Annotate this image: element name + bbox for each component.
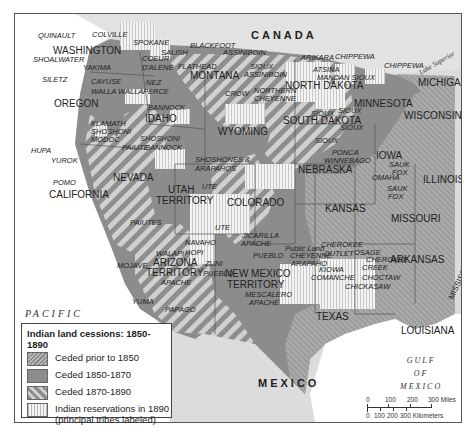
ocean-label-gulf: GULFOFMEXICO xyxy=(400,354,442,393)
tribe-label: BANNOCK xyxy=(145,144,182,152)
tribe-label: ASSINIBOIN xyxy=(244,71,287,79)
tribe-label: WALAPI xyxy=(156,250,184,258)
tribe-label: D'ALENE xyxy=(142,64,173,72)
state-label: NEBRASKA xyxy=(298,164,352,175)
tribe-label: PUEBLO xyxy=(253,252,283,260)
state-label: LOUISIANA xyxy=(401,325,454,336)
country-label-canada: CANADA xyxy=(251,29,317,41)
legend-item-reservations: Indian reservations in 1890(principal tr… xyxy=(27,403,171,429)
state-label: WYOMING xyxy=(218,126,268,137)
country-label-mexico: MEXICO xyxy=(258,377,319,389)
tribe-label: MANDAN SIOUX xyxy=(317,74,375,82)
legend-title: Indian land cessions: 1850-1890 xyxy=(27,328,171,350)
state-label: IDAHO xyxy=(145,113,177,124)
tribe-label: APACHE xyxy=(241,240,271,248)
tribe-label: CROW xyxy=(225,90,249,98)
tribe-label: BANNOCK xyxy=(148,104,185,112)
tribe-label: FOX xyxy=(388,193,403,201)
state-label: UTAH xyxy=(168,184,194,195)
legend-item-prior-1850: Ceded prior to 1850 xyxy=(27,352,171,367)
state-label: KANSAS xyxy=(325,203,366,214)
tribe-label: SIOUX xyxy=(311,110,334,118)
state-label: ILLINOIS xyxy=(423,174,462,185)
state-label: OREGON xyxy=(54,98,98,109)
map-legend: Indian land cessions: 1850-1890 Ceded pr… xyxy=(21,323,172,418)
tribe-label: ZUNI xyxy=(205,260,223,268)
tribe-label: UTE xyxy=(202,183,217,191)
tribe-label: CHIPPEWA xyxy=(384,62,424,70)
scale-bar: 0 100 200 300 Miles 0 100 200 300 Kilome… xyxy=(366,396,466,422)
tribe-label: MOJAVE xyxy=(117,262,147,270)
tribe-label: CHOCTAW xyxy=(362,274,400,282)
tribe-label: SHOALWATER xyxy=(33,56,85,64)
state-label: TERRITORY xyxy=(227,279,284,290)
tribe-label: QUINAULT xyxy=(38,32,75,40)
tribe-label: POMO xyxy=(53,179,76,187)
tribe-label: SILETZ xyxy=(42,76,67,84)
tribe-label: NAVAHO xyxy=(185,239,216,247)
tribe-label: CHEYENNE xyxy=(254,95,296,103)
tribe-label: YUROK xyxy=(51,157,78,165)
tribe-label: ASSINIBOIN xyxy=(223,49,266,57)
tribe-label: SHOSHONI xyxy=(140,135,180,143)
tribe-label: SIOUX xyxy=(338,107,361,115)
tribe-label: COLVILLE xyxy=(92,31,127,39)
tribe-label: PAIUTES xyxy=(130,219,162,227)
tribe-label: NEZ xyxy=(146,79,161,87)
wide-diagonal-swatch-icon xyxy=(27,386,48,400)
tribe-label: YAKIMA xyxy=(83,64,111,72)
tribe-label: APACHE xyxy=(161,279,191,287)
fine-diagonal-swatch-icon xyxy=(27,352,48,366)
state-label: COLORADO xyxy=(227,197,284,208)
tribe-label: HUPA xyxy=(31,147,51,155)
state-label: CALIFORNIA xyxy=(49,189,109,200)
tribe-label: SHOSHONES & xyxy=(195,156,250,164)
tribe-label: CREEK xyxy=(362,264,388,272)
tribe-label: SALISH xyxy=(161,49,188,57)
state-label: MICHIGAN xyxy=(418,77,462,88)
tribe-label: PERCE xyxy=(143,88,169,96)
state-label: WISCONSIN xyxy=(404,110,462,121)
tribe-label: SIOUX xyxy=(340,124,363,132)
tribe-label: SPOKANE xyxy=(133,39,169,47)
state-label: MISSOURI xyxy=(391,213,440,224)
tribe-label: FLATHEAD xyxy=(178,63,217,71)
tribe-label: WINNEBAGO xyxy=(324,157,371,165)
tribe-label: CHIPPEWA xyxy=(335,53,375,61)
tribe-label: MODOC xyxy=(91,136,120,144)
tribe-label: OUTLET xyxy=(324,250,354,258)
tribe-label: COMANCHE xyxy=(311,274,355,282)
tribe-label: APACHE xyxy=(249,299,279,307)
legend-item-1870-1890: Ceded 1870-1890 xyxy=(27,386,171,401)
tribe-label: CAYUSE xyxy=(91,78,121,86)
tribe-label: UTE xyxy=(215,224,230,232)
tribe-label: PAPAGO xyxy=(165,306,196,314)
tribe-label: WALLA WALLA xyxy=(91,88,143,96)
vertical-stripe-swatch-icon xyxy=(27,403,48,417)
tribe-label: ARAPAHOS xyxy=(195,165,236,173)
state-label: NEW MEXICO xyxy=(225,268,291,279)
legend-item-1850-1870: Ceded 1850-1870 xyxy=(27,369,171,384)
state-label: TERRITORY xyxy=(156,195,213,206)
tribe-label: ARIKARA xyxy=(301,54,334,62)
state-label: NEVADA xyxy=(113,172,153,183)
tribe-label: CHICKASAW xyxy=(345,283,390,291)
tribe-label: SIOUX xyxy=(315,137,338,145)
tribe-label: PUEBLO xyxy=(203,270,233,278)
state-label: MINNESOTA xyxy=(354,98,413,109)
solid-swatch-icon xyxy=(27,369,48,383)
state-label: TEXAS xyxy=(316,311,349,322)
tribe-label: FOX xyxy=(392,169,407,177)
tribe-label: HOPI xyxy=(185,249,203,257)
state-label: TERRITORY xyxy=(146,267,203,278)
tribe-label: YUMA xyxy=(132,298,154,306)
state-label: MONTANA xyxy=(190,70,239,81)
